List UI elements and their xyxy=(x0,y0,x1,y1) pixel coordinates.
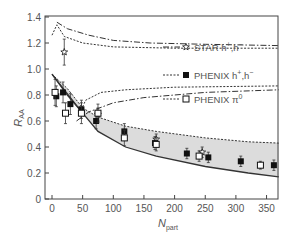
y-tick-label: 0.4 xyxy=(27,142,41,153)
x-axis-label: Npart xyxy=(158,217,178,232)
x-tick-label: 350 xyxy=(258,203,275,214)
open-square-marker xyxy=(183,96,189,102)
star-marker xyxy=(61,49,68,56)
y-tick-label: 1.0 xyxy=(27,64,41,75)
chart-svg: 00.20.40.60.81.01.21.4050100150200250300… xyxy=(0,0,292,236)
legend-label: PHENIX π0 xyxy=(194,93,243,105)
y-tick-label: 0 xyxy=(35,194,41,205)
legend-item: PHENIX π0 xyxy=(163,93,243,105)
legend-item: PHENIX h+,h− xyxy=(163,69,253,81)
y-tick-label: 0.2 xyxy=(27,168,41,179)
x-tick-label: 250 xyxy=(197,203,214,214)
filled-square-marker xyxy=(205,154,211,160)
y-tick-label: 1.4 xyxy=(27,12,41,23)
x-tick-label: 0 xyxy=(49,203,55,214)
x-tick-label: 100 xyxy=(105,203,122,214)
open-square-marker xyxy=(78,110,84,116)
curve xyxy=(77,90,279,121)
y-tick-label: 0.6 xyxy=(27,116,41,127)
open-square-marker xyxy=(153,141,159,147)
open-square-marker xyxy=(95,110,101,116)
filled-square-marker xyxy=(238,158,244,164)
x-tick-label: 50 xyxy=(77,203,89,214)
curve xyxy=(52,25,279,48)
band-fill xyxy=(52,74,279,177)
x-tick-label: 300 xyxy=(228,203,245,214)
chart-container: 00.20.40.60.81.01.21.4050100150200250300… xyxy=(0,0,292,236)
theory-band xyxy=(52,74,279,177)
x-tick-label: 150 xyxy=(136,203,153,214)
curve xyxy=(57,22,279,45)
legend-label: PHENIX h+,h− xyxy=(194,69,253,81)
open-square-marker xyxy=(52,89,58,95)
open-square-marker xyxy=(121,135,127,141)
x-tick-label: 200 xyxy=(166,203,183,214)
filled-square-marker xyxy=(184,151,190,157)
filled-square-marker xyxy=(271,162,277,168)
filled-square-marker xyxy=(67,101,73,107)
legend-label: STAR h+,h− xyxy=(194,41,243,53)
filled-square-marker xyxy=(60,89,66,95)
filled-square-marker xyxy=(183,72,189,78)
y-axis-label: RAA xyxy=(12,109,25,127)
legend-item: STAR h+,h− xyxy=(163,41,243,53)
open-square-marker xyxy=(196,153,202,159)
curve xyxy=(80,86,279,113)
open-square-marker xyxy=(62,110,68,116)
open-square-marker xyxy=(257,162,263,168)
y-tick-label: 0.8 xyxy=(27,90,41,101)
y-tick-label: 1.2 xyxy=(27,38,41,49)
